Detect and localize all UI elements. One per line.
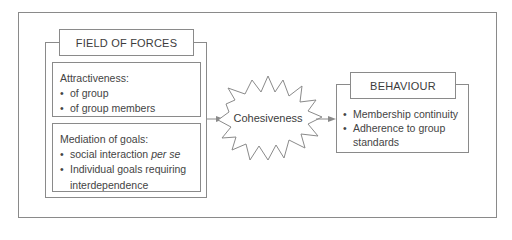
cohesiveness-label: Cohesiveness	[218, 112, 318, 124]
